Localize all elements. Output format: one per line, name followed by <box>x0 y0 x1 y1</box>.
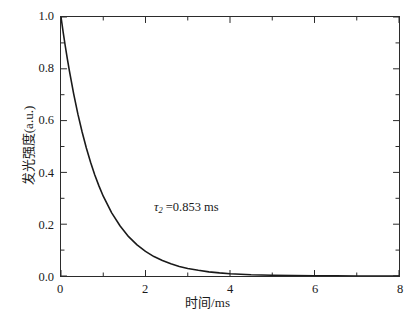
tau-value: =0.853 ms <box>166 200 219 214</box>
y-tick-label: 1.0 <box>20 10 54 23</box>
lifetime-annotation: τ2=0.853 ms <box>154 200 219 215</box>
x-axis-title: 时间/ms <box>0 292 415 311</box>
figure-caption <box>0 315 415 326</box>
x-axis-ticks <box>61 17 399 276</box>
y-axis-title: 发光强度(a.u.) <box>18 61 37 231</box>
y-tick-label: 0.0 <box>20 271 54 284</box>
tau-subscript: 2 <box>158 205 162 215</box>
plot-area <box>60 16 400 277</box>
plot-canvas <box>61 17 399 276</box>
decay-curve <box>61 17 399 276</box>
figure-decay-curve: 0.00.20.40.60.81.0 02468 时间/ms 发光强度(a.u.… <box>0 0 415 326</box>
y-axis-ticks <box>61 17 399 276</box>
